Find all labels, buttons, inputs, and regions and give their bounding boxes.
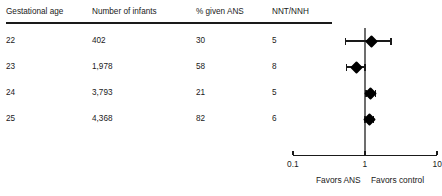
- confidence-interval-cap-high: [364, 64, 365, 71]
- forest-plot: 0.1 1 10 Favors ANS Favors control: [0, 0, 442, 196]
- forest-plot-figure: Gestational age Number of infants % give…: [0, 0, 442, 196]
- favors-ans-label: Favors ANS: [316, 175, 361, 185]
- x-axis-label-high: 10: [433, 159, 442, 169]
- x-axis-tick-high: [436, 151, 437, 155]
- x-axis-label-mid: 1: [363, 159, 368, 169]
- point-estimate-marker: [366, 35, 379, 48]
- confidence-interval-cap-low: [345, 38, 346, 45]
- x-axis-line: [293, 155, 437, 156]
- x-axis-label-low: 0.1: [287, 159, 299, 169]
- confidence-interval-cap-high: [390, 38, 391, 45]
- favors-control-label: Favors control: [371, 175, 424, 185]
- x-axis-tick-low: [292, 151, 293, 155]
- x-axis-tick-mid: [364, 151, 365, 155]
- confidence-interval-cap-low: [346, 64, 347, 71]
- point-estimate-marker: [350, 61, 363, 74]
